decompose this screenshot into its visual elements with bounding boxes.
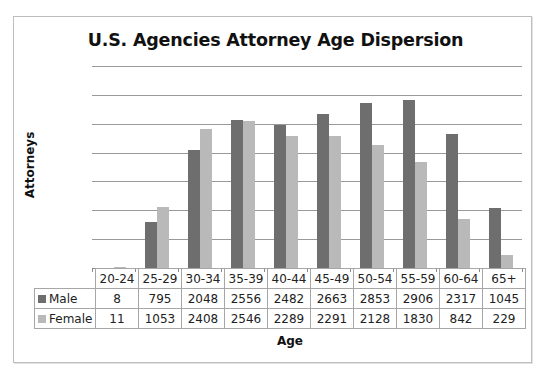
table-header-cell: 50-54 [354, 269, 397, 289]
table-cell: 2663 [311, 289, 354, 309]
table-cell: 1830 [397, 309, 440, 329]
gridline [92, 95, 522, 96]
x-axis-label: Age [277, 334, 303, 348]
y-axis-label: Attorneys [23, 132, 37, 199]
table-header-cell: 60-64 [440, 269, 483, 289]
gridline [92, 66, 522, 67]
table-header-cell: 40-44 [268, 269, 311, 289]
bar-male-60-64 [446, 134, 458, 268]
table-cell: 1045 [483, 289, 526, 309]
legend-label: Male [49, 292, 77, 306]
table-header-cell: 45-49 [311, 269, 354, 289]
bar-female-35-39 [243, 121, 255, 268]
bar-female-55-59 [415, 162, 427, 268]
plot-area [92, 66, 522, 268]
bar-male-50-54 [360, 103, 372, 268]
bar-female-50-54 [372, 145, 384, 268]
table-header-cell: 30-34 [182, 269, 225, 289]
bar-male-65+ [489, 208, 501, 268]
table-cell: 2546 [225, 309, 268, 329]
legend-swatch-icon [38, 315, 46, 323]
table-cell: 842 [440, 309, 483, 329]
legend-entry-female: Female [35, 309, 96, 329]
gridline [92, 124, 522, 125]
table-cell: 11 [96, 309, 139, 329]
bar-male-55-59 [403, 100, 415, 268]
table-cell: 2291 [311, 309, 354, 329]
table-cell: 1053 [139, 309, 182, 329]
table-cell: 8 [96, 289, 139, 309]
bar-female-60-64 [458, 219, 470, 268]
legend-label: Female [49, 312, 92, 326]
table-cell: 2482 [268, 289, 311, 309]
bar-female-40-44 [286, 136, 298, 268]
legend-entry-male: Male [35, 289, 96, 309]
table-cell: 2128 [354, 309, 397, 329]
chart-title: U.S. Agencies Attorney Age Dispersion [0, 30, 551, 50]
gridline [92, 153, 522, 154]
bar-male-25-29 [145, 222, 157, 268]
table-cell: 2906 [397, 289, 440, 309]
bar-female-65+ [501, 255, 513, 268]
table-row: Female1110532408254622892291212818308422… [35, 309, 526, 329]
table-cell: 2289 [268, 309, 311, 329]
table-header-cell: 20-24 [96, 269, 139, 289]
table-cell: 2556 [225, 289, 268, 309]
bar-female-45-49 [329, 136, 341, 268]
table-cell: 795 [139, 289, 182, 309]
table-header-cell: 25-29 [139, 269, 182, 289]
table-cell: 2408 [182, 309, 225, 329]
table-header-cell: 55-59 [397, 269, 440, 289]
gridline [92, 181, 522, 182]
table-header-cell: 35-39 [225, 269, 268, 289]
table-cell: 229 [483, 309, 526, 329]
legend-swatch-icon [38, 295, 46, 303]
table-cell: 2048 [182, 289, 225, 309]
bar-male-45-49 [317, 114, 329, 268]
table-header-cell: 65+ [483, 269, 526, 289]
table-cell: 2317 [440, 289, 483, 309]
table-row: Male879520482556248226632853290623171045 [35, 289, 526, 309]
bar-male-30-34 [188, 150, 200, 268]
bar-male-40-44 [274, 125, 286, 268]
table-cell: 2853 [354, 289, 397, 309]
data-table: 20-2425-2930-3435-3940-4445-4950-5455-59… [34, 268, 526, 329]
bar-male-35-39 [231, 120, 243, 268]
table-corner [35, 269, 96, 289]
bar-female-25-29 [157, 207, 169, 268]
bar-female-30-34 [200, 129, 212, 268]
